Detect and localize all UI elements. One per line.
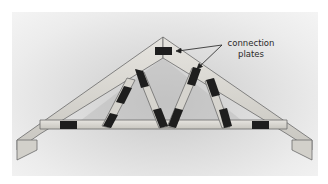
- right-overhang: [292, 140, 312, 160]
- plate-bottom-right: [252, 121, 269, 129]
- annotation-line-2: plates: [222, 49, 280, 60]
- annotation-line-1: connection: [222, 38, 280, 49]
- plate-bottom-left: [60, 121, 77, 129]
- truss-diagram: [0, 0, 328, 184]
- left-overhang: [17, 140, 37, 160]
- arrow-to-web-plate: [199, 45, 222, 67]
- plate-peak: [155, 47, 172, 55]
- annotation-label: connection plates: [222, 38, 280, 60]
- arrow-to-peak-plate: [178, 45, 222, 51]
